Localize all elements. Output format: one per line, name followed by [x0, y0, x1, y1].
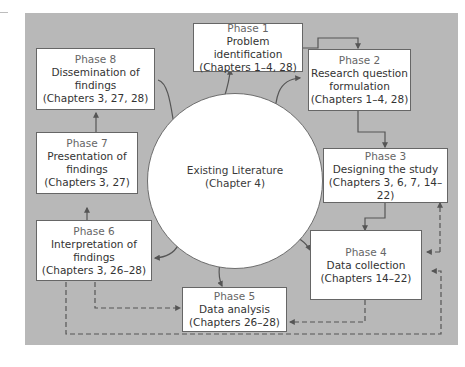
phase-chapters: (Chapters 3, 27, 28)	[37, 92, 154, 105]
phase-chapters: (Chapters 1–4, 28)	[309, 93, 410, 106]
phase-1-box: Phase 1 Problem identification (Chapters…	[193, 23, 303, 72]
phase-title: Data analysis	[183, 303, 286, 316]
phase-title: Dissemination of	[37, 66, 154, 79]
phase-title: Interpretation of	[37, 238, 151, 251]
phase-8-box: Phase 8 Dissemination of findings (Chapt…	[36, 48, 155, 110]
phase-label: Phase 7	[37, 137, 137, 150]
phase-title-2: findings	[37, 251, 151, 264]
phase-6-box: Phase 6 Interpretation of findings (Chap…	[36, 220, 152, 281]
phase-chapters: (Chapters 1–4, 28)	[194, 61, 302, 74]
phase-title-2: findings	[37, 79, 154, 92]
center-title: Existing Literature	[147, 164, 323, 177]
phase-label: Phase 2	[309, 54, 410, 67]
existing-literature-label: Existing Literature (Chapter 4)	[147, 164, 323, 190]
phase-title-2: findings	[37, 163, 137, 176]
phase-label: Phase 8	[37, 53, 154, 66]
phase-7-box: Phase 7 Presentation of findings (Chapte…	[36, 132, 138, 194]
phase-4-box: Phase 4 Data collection (Chapters 14–22)	[310, 230, 422, 300]
phase-title: Designing the study	[324, 163, 447, 176]
phase-5-box: Phase 5 Data analysis (Chapters 26–28)	[182, 287, 287, 332]
phase-title: Data collection	[311, 259, 421, 272]
center-subtitle: (Chapter 4)	[147, 177, 323, 190]
phase-chapters: (Chapters 3, 27)	[37, 176, 137, 189]
phase-3-box: Phase 3 Designing the study (Chapters 3,…	[323, 148, 448, 203]
phase-label: Phase 1	[194, 22, 302, 35]
phase-title: Presentation of	[37, 150, 137, 163]
phase-chapters: (Chapters 14–22)	[311, 272, 421, 285]
phase-label: Phase 6	[37, 225, 151, 238]
phase-label: Phase 5	[183, 290, 286, 303]
phase-chapters: (Chapters 3, 6, 7, 14–22)	[324, 176, 447, 202]
phase-title: Research question	[309, 67, 410, 80]
phase-2-box: Phase 2 Research question formulation (C…	[308, 49, 411, 111]
phase-chapters: (Chapters 26–28)	[183, 316, 286, 329]
phase-label: Phase 4	[311, 246, 421, 259]
phase-title-2: formulation	[309, 80, 410, 93]
phase-title: Problem identification	[194, 35, 302, 61]
phase-label: Phase 3	[324, 150, 447, 163]
phase-chapters: (Chapters 3, 26–28)	[37, 264, 151, 277]
